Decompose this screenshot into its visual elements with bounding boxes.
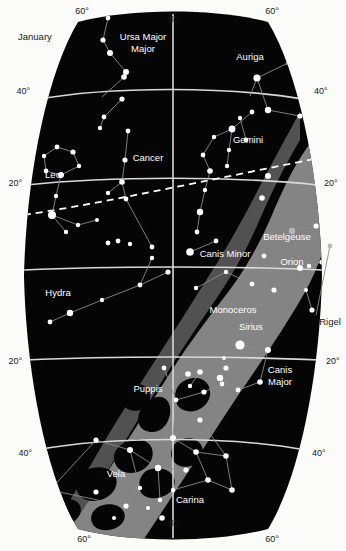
label-gemini: Gemini [233, 134, 263, 145]
dec-label-top-left: 60° [75, 6, 89, 16]
label-rigel: Rigel [319, 316, 341, 327]
label-betelgeuse: Betelgeuse [263, 231, 311, 242]
label-hydra: Hydra [45, 287, 71, 298]
label-monoceros: Monoceros [210, 304, 257, 315]
label-canis-major-line2: Major [268, 376, 292, 387]
dec-label-right-40n: 40° [314, 86, 328, 96]
label-vela: Vela [107, 468, 126, 479]
label-leo: Leo [45, 169, 61, 180]
star-chart-panel: Ursa Major Auriga Gemini Cancer Leo Cani… [0, 0, 346, 551]
ra-label-bottom: 8ʰ [169, 518, 178, 528]
dec-label-left-20n: 20° [8, 178, 22, 188]
dec-label-top-right: 60° [265, 6, 279, 16]
ra-label-top: 8ʰ [169, 14, 178, 24]
label-canis-minor: Canis Minor [200, 248, 251, 259]
dec-label-left-20s: 20° [8, 356, 22, 366]
label-canis-major-line1: Canis [268, 364, 293, 375]
label-auriga: Auriga [236, 51, 264, 62]
wrapped-labels: Canis Major [268, 364, 293, 387]
label-orion: Orion [280, 256, 303, 267]
label-carina: Carina [176, 494, 205, 505]
dec-label-right-40s: 40° [312, 448, 326, 458]
label-cancer: Cancer [133, 152, 164, 163]
label-sirius: Sirius [239, 321, 263, 332]
dec-label-left-40n: 40° [16, 86, 30, 96]
label-puppis: Puppis [133, 383, 162, 394]
dec-label-bottom-left: 60° [77, 534, 91, 544]
dec-label-right-20n: 20° [324, 178, 338, 188]
dec-label-right-20s: 20° [326, 356, 340, 366]
month-label: January [18, 31, 52, 42]
dec-label-bottom-right: 60° [265, 534, 279, 544]
star-chart-svg: Ursa Major Auriga Gemini Cancer Leo Cani… [0, 0, 346, 551]
dec-label-left-40s: 40° [18, 448, 32, 458]
label-ursa-major-line2: Major [131, 43, 155, 54]
label-ursa-major-line1: Ursa Major [120, 31, 166, 42]
